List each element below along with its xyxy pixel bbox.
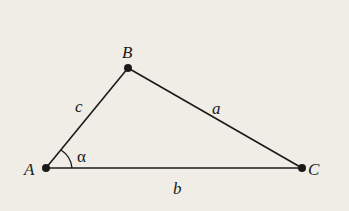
side-c-label: c <box>75 97 83 116</box>
vertex-c-dot <box>298 164 306 172</box>
triangle-diagram: A B C c a b α <box>0 0 349 211</box>
vertex-a-dot <box>42 164 50 172</box>
side-b-label: b <box>173 179 182 198</box>
side-a <box>128 68 302 168</box>
side-a-label: a <box>212 99 221 118</box>
vertex-a-label: A <box>23 160 35 179</box>
side-c <box>46 68 128 168</box>
vertex-b-dot <box>124 64 132 72</box>
angle-alpha-arc <box>61 150 72 168</box>
vertex-b-label: B <box>122 43 133 62</box>
vertex-c-label: C <box>308 160 320 179</box>
angle-alpha-label: α <box>77 147 86 166</box>
